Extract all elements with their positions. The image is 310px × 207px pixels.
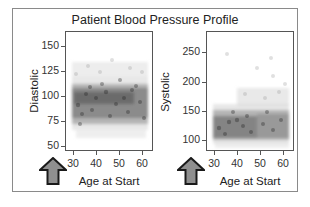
up-arrow-icon[interactable] (39, 157, 67, 185)
right-x-axis-label: Age at Start (200, 175, 300, 187)
right-ytick-250: 250 (170, 45, 200, 57)
left-x-axis-label: Age at Start (59, 175, 159, 187)
diastolic-scatter (66, 32, 153, 151)
right-ytick-100: 100 (170, 133, 200, 145)
right-xtick-30: 30 (204, 157, 224, 169)
chart-title: Patient Blood Pressure Profile (12, 13, 298, 27)
left-xtick-50: 50 (109, 157, 129, 169)
right-xtick-60: 60 (273, 157, 293, 169)
systolic-scatter (207, 32, 294, 151)
left-ytick-75: 75 (29, 114, 59, 126)
left-xtick-40: 40 (86, 157, 106, 169)
left-xtick-mark (119, 151, 120, 155)
right-xtick-mark (214, 151, 215, 155)
left-ytick-150: 150 (29, 39, 59, 51)
left-xtick-mark (96, 151, 97, 155)
right-plot-area (206, 31, 294, 151)
right-xtick-mark (237, 151, 238, 155)
right-ytick-150: 150 (170, 104, 200, 116)
right-xtick-mark (283, 151, 284, 155)
right-ytick-200: 200 (170, 75, 200, 87)
left-xtick-mark (142, 151, 143, 155)
up-arrow-icon[interactable] (177, 157, 205, 185)
right-xtick-50: 50 (250, 157, 270, 169)
left-ytick-50: 50 (29, 139, 59, 151)
left-ytick-125: 125 (29, 64, 59, 76)
left-ytick-100: 100 (29, 89, 59, 101)
left-xtick-mark (73, 151, 74, 155)
right-xtick-40: 40 (227, 157, 247, 169)
left-xtick-60: 60 (132, 157, 152, 169)
right-xtick-mark (260, 151, 261, 155)
left-plot-area (65, 31, 153, 151)
